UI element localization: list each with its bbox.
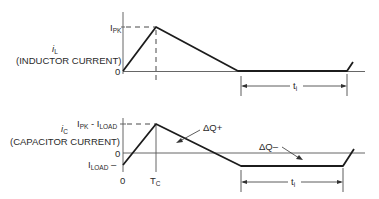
bottom-x-zero-label: 0: [120, 175, 125, 186]
svg-text:ΔQ+: ΔQ+: [203, 122, 223, 133]
top-signal-description: (INDUCTOR CURRENT): [16, 55, 121, 66]
bottom-peak-label: IPK - ILOAD: [77, 118, 117, 130]
bottom-zero-label: 0: [115, 148, 120, 159]
bottom-tc-label: TC: [150, 175, 161, 187]
top-zero-label: 0: [115, 66, 120, 77]
inductor-current-plot: IPK 0 iL (INDUCTOR CURRENT) ti: [16, 12, 365, 96]
inductor-current-waveform: [123, 27, 353, 71]
bottom-signal-description: (CAPACITOR CURRENT): [10, 136, 120, 147]
charge-plus-annotation: ΔQ+: [176, 122, 223, 143]
bottom-interval-dimension: ti: [241, 168, 343, 192]
bottom-signal-symbol: iC: [61, 123, 68, 135]
charge-minus-annotation: ΔQ–: [259, 141, 303, 160]
top-ipk-label: IPK: [110, 22, 122, 34]
capacitor-current-plot: IPK - ILOAD 0 ILOAD – iC (CAPACITOR CURR…: [10, 118, 365, 192]
bottom-iload-label: ILOAD –: [88, 159, 117, 171]
top-interval-label: ti: [293, 80, 297, 92]
top-interval-dimension: ti: [241, 74, 347, 96]
svg-text:ΔQ–: ΔQ–: [259, 141, 279, 152]
waveform-diagram: IPK 0 iL (INDUCTOR CURRENT) ti IPK - ILO…: [0, 0, 379, 199]
capacitor-current-waveform: [123, 124, 354, 166]
top-signal-symbol: iL: [52, 43, 58, 55]
bottom-interval-label: ti: [291, 176, 295, 188]
